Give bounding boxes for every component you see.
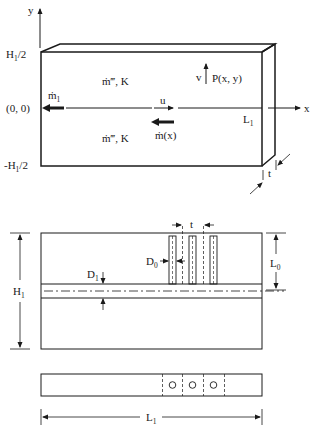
pitch-label: t xyxy=(190,218,193,230)
thickness-arrow-upper xyxy=(278,154,290,165)
thickness-label: t xyxy=(268,167,271,179)
local-flow-label: ṁ(x) xyxy=(155,129,177,142)
side-view: L1 xyxy=(41,374,262,426)
tube-length-label: L0 xyxy=(270,257,281,272)
y-bottom-label: -H1/2 xyxy=(4,159,28,174)
source-lower-label: ṁ‴, K xyxy=(102,132,129,144)
side-view-outline xyxy=(41,374,262,396)
tube-hole-2 xyxy=(189,382,196,389)
length-label: L1 xyxy=(243,113,254,128)
box-right-face xyxy=(262,44,275,166)
outlet-flow-arrowhead xyxy=(42,104,50,112)
tube-2 xyxy=(189,236,196,284)
tube-diameter-label: D0 xyxy=(146,255,158,270)
tube-1 xyxy=(169,236,176,284)
thickness-arrow-lower xyxy=(250,183,262,194)
tube-3 xyxy=(210,236,217,284)
x-axis-label: x xyxy=(304,102,310,114)
height-label: H1 xyxy=(13,285,25,300)
side-length-label: L1 xyxy=(146,411,157,426)
outlet-flow-label: ṁ1 xyxy=(48,89,61,104)
tube-hole-1 xyxy=(169,382,176,389)
y-top-label: H1/2 xyxy=(6,48,26,63)
source-upper-label: ṁ‴, K xyxy=(102,75,129,87)
velocity-v-label: v xyxy=(196,71,202,83)
box-front-face xyxy=(41,52,262,166)
isometric-view: y H1/2 (0, 0) -H1/2 x ṁ1 u ṁ‴, K ṁ‴, … xyxy=(4,4,310,194)
local-flow-arrowhead xyxy=(151,118,159,126)
box-top-face xyxy=(41,44,275,52)
y-axis-label: y xyxy=(28,4,34,16)
front-view: t D0 D1 H1 L0 xyxy=(10,218,286,349)
tube-hole-3 xyxy=(210,382,217,389)
heat-generating-plate-diagram: y H1/2 (0, 0) -H1/2 x ṁ1 u ṁ‴, K ṁ‴, … xyxy=(0,0,312,436)
channel-diameter-label: D1 xyxy=(87,268,99,283)
point-label: P(x, y) xyxy=(212,72,242,85)
origin-label: (0, 0) xyxy=(6,102,30,115)
velocity-u-label: u xyxy=(160,94,166,106)
